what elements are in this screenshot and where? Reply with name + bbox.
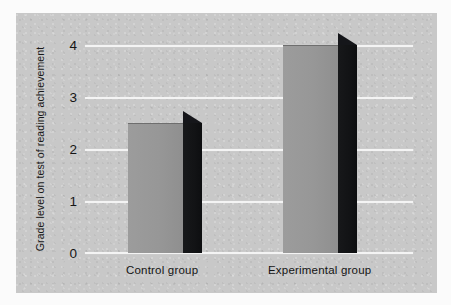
bar-control-group-front [128,123,183,253]
bar-experimental-group-side [338,45,357,253]
x-label-control-group: Control group [126,264,198,276]
x-label-experimental-group: Experimental group [268,264,371,276]
bar-experimental-group-front [283,45,338,253]
plot-area [85,45,413,253]
y-axis-title: Grade level on test of reading achieveme… [30,45,50,253]
bar-chart-figure: Grade level on test of reading achieveme… [0,0,451,305]
gridline-3 [85,97,413,99]
bar-control-group-side [183,123,202,253]
gridline-4 [85,45,413,47]
